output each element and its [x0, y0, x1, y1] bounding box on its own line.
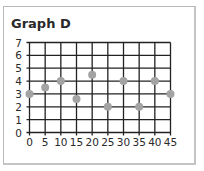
data-point [167, 90, 175, 98]
data-point [120, 77, 128, 85]
x-tick-label: 0 [26, 136, 33, 148]
y-tick-label: 2 [15, 101, 22, 113]
x-tick-label: 10 [54, 136, 67, 148]
x-tick-label: 5 [42, 136, 49, 148]
data-point [88, 71, 96, 79]
data-point [151, 77, 159, 85]
x-tick-label: 45 [164, 136, 177, 148]
x-tick-label: 35 [132, 136, 145, 148]
data-point [57, 77, 65, 85]
data-point [104, 103, 112, 111]
x-tick-label: 15 [70, 136, 83, 148]
data-point [135, 103, 143, 111]
data-point [26, 90, 34, 98]
y-tick-label: 4 [15, 75, 22, 87]
y-tick-label: 1 [15, 114, 22, 126]
x-tick-label: 40 [148, 136, 161, 148]
y-tick-label: 7 [15, 37, 22, 49]
y-tick-label: 3 [15, 88, 22, 100]
scatter-plot: 05101520253035404501234567 [0, 0, 204, 171]
y-tick-label: 6 [15, 49, 22, 61]
y-tick-label: 0 [15, 127, 22, 139]
x-tick-label: 20 [85, 136, 98, 148]
x-tick-label: 30 [117, 136, 130, 148]
data-point [73, 95, 81, 103]
x-tick-label: 25 [101, 136, 114, 148]
y-tick-label: 5 [15, 62, 22, 74]
data-point [41, 84, 49, 92]
